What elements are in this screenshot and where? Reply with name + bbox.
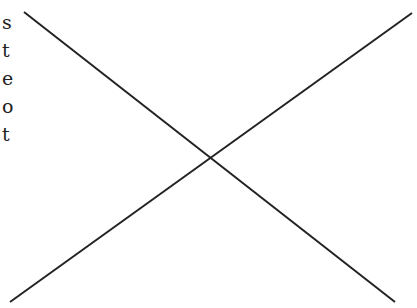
- ascending-line: [10, 13, 412, 302]
- crossing-lines-diagram: [0, 0, 417, 308]
- descending-line: [24, 12, 395, 302]
